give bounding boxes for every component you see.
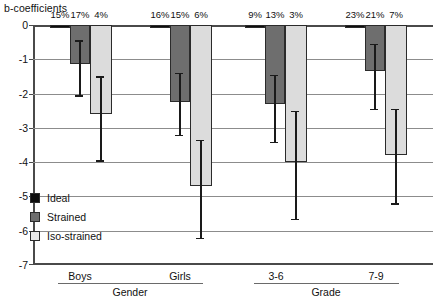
data-label-ideal-girls: 16% bbox=[150, 9, 169, 20]
bar-chart: b-coefficients 0 -1 -2 -3 -4 -5 -6 -7 bbox=[0, 0, 440, 299]
y-axis-ticks: 0 -1 -2 -3 -4 -5 -6 -7 bbox=[0, 25, 28, 265]
data-label-ideal-boys: 15% bbox=[50, 9, 69, 20]
y-tick-mark-0 bbox=[29, 25, 33, 26]
x-tick-label-girls: Girls bbox=[169, 270, 191, 282]
bar-ideal-boys bbox=[50, 25, 70, 28]
x-group-label-grade: Grade bbox=[311, 286, 340, 298]
errorbar-cap-top-strained-girls bbox=[175, 73, 183, 74]
gridline-minus3 bbox=[33, 128, 433, 129]
errorbar-cap-bot-isostrained-boys bbox=[96, 160, 104, 161]
data-label-isostrained-girls: 6% bbox=[194, 9, 208, 20]
errorbar-isostrained-grade79 bbox=[395, 109, 396, 203]
y-tick-label-6: -6 bbox=[19, 225, 28, 237]
data-label-ideal-grade79: 23% bbox=[345, 9, 364, 20]
errorbar-strained-grade79 bbox=[374, 44, 375, 109]
legend-label-isostrained: Iso-strained bbox=[47, 230, 102, 242]
legend-item-ideal: Ideal bbox=[30, 188, 102, 207]
data-label-strained-grade36: 13% bbox=[265, 9, 284, 20]
bar-ideal-girls bbox=[150, 25, 170, 28]
x-group-label-gender: Gender bbox=[112, 286, 147, 298]
errorbar-strained-boys bbox=[79, 40, 80, 95]
y-tick-label-0: 0 bbox=[22, 19, 28, 31]
y-tick-mark-3 bbox=[29, 128, 33, 129]
y-tick-label-4: -4 bbox=[19, 156, 28, 168]
errorbar-cap-top-isostrained-grade36 bbox=[291, 111, 299, 112]
bar-ideal-grade79 bbox=[345, 25, 365, 28]
legend-item-strained: Strained bbox=[30, 207, 102, 226]
x-tick-label-boys: Boys bbox=[68, 270, 91, 282]
errorbar-isostrained-grade36 bbox=[295, 111, 296, 219]
errorbar-isostrained-girls bbox=[200, 140, 201, 238]
data-label-strained-boys: 17% bbox=[70, 9, 89, 20]
gridline-minus4 bbox=[33, 162, 433, 163]
errorbar-cap-bot-isostrained-grade36 bbox=[291, 219, 299, 220]
bar-ideal-grade36 bbox=[245, 25, 265, 28]
legend-swatch-ideal-icon bbox=[30, 193, 40, 203]
group-rule-grade bbox=[254, 283, 399, 284]
y-tick-mark-1 bbox=[29, 59, 33, 60]
errorbar-cap-top-strained-grade79 bbox=[370, 44, 378, 45]
data-label-strained-girls: 15% bbox=[170, 9, 189, 20]
y-tick-label-1: -1 bbox=[19, 53, 28, 65]
y-tick-label-2: -2 bbox=[19, 88, 28, 100]
plot-area: Ideal Strained Iso-strained bbox=[33, 25, 433, 265]
errorbar-cap-bot-strained-grade36 bbox=[270, 142, 278, 143]
errorbar-cap-top-isostrained-boys bbox=[96, 76, 104, 77]
y-tick-label-3: -3 bbox=[19, 122, 28, 134]
errorbar-cap-top-isostrained-grade79 bbox=[391, 109, 399, 110]
data-label-isostrained-grade36: 3% bbox=[289, 9, 303, 20]
data-label-strained-grade79: 21% bbox=[365, 9, 384, 20]
axis-bottom-spine bbox=[33, 263, 433, 265]
errorbar-isostrained-boys bbox=[100, 76, 101, 160]
errorbar-cap-bot-strained-girls bbox=[175, 135, 183, 136]
errorbar-cap-bot-isostrained-grade79 bbox=[391, 203, 399, 204]
errorbar-cap-bot-strained-grade79 bbox=[370, 109, 378, 110]
legend-swatch-strained-icon bbox=[30, 212, 40, 222]
data-label-isostrained-grade79: 7% bbox=[389, 9, 403, 20]
errorbar-cap-top-strained-grade36 bbox=[270, 75, 278, 76]
x-tick-label-grade79: 7-9 bbox=[368, 270, 383, 282]
y-tick-mark-7 bbox=[29, 264, 33, 265]
y-tick-label-7: -7 bbox=[19, 259, 28, 271]
legend-label-strained: Strained bbox=[47, 211, 86, 223]
legend-item-isostrained: Iso-strained bbox=[30, 226, 102, 245]
errorbar-cap-top-strained-boys bbox=[75, 40, 83, 41]
y-tick-label-5: -5 bbox=[19, 190, 28, 202]
data-label-ideal-grade36: 9% bbox=[248, 9, 262, 20]
errorbar-cap-bot-strained-boys bbox=[75, 95, 83, 96]
group-rule-gender bbox=[58, 283, 203, 284]
errorbar-cap-top-isostrained-girls bbox=[196, 140, 204, 141]
y-tick-mark-4 bbox=[29, 162, 33, 163]
legend: Ideal Strained Iso-strained bbox=[30, 188, 102, 245]
errorbar-cap-bot-isostrained-girls bbox=[196, 238, 204, 239]
legend-label-ideal: Ideal bbox=[47, 192, 70, 204]
errorbar-strained-girls bbox=[179, 73, 180, 135]
legend-swatch-isostrained-icon bbox=[30, 231, 40, 241]
x-tick-label-grade36: 3-6 bbox=[268, 270, 283, 282]
y-tick-mark-2 bbox=[29, 94, 33, 95]
data-label-isostrained-boys: 4% bbox=[94, 9, 108, 20]
errorbar-strained-grade36 bbox=[274, 75, 275, 142]
